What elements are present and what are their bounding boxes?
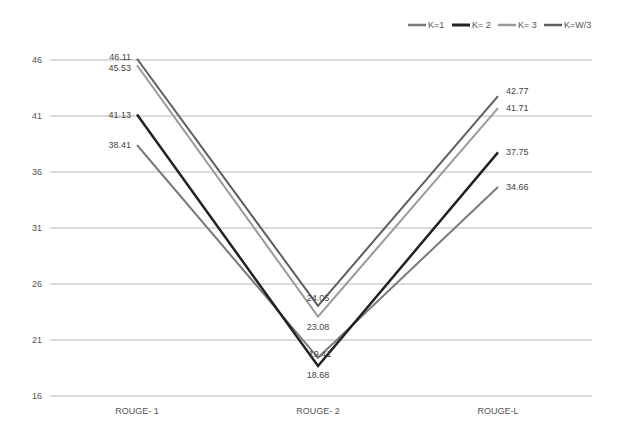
legend-label: K= 3 [518,20,537,30]
data-label: 19.41 [309,349,332,359]
legend-label: K=W/3 [564,20,591,30]
data-label: 37.75 [506,147,529,157]
y-tick-label: 16 [32,391,42,401]
data-label: 24.05 [307,293,330,303]
data-label: 42.77 [506,86,529,96]
data-label: 23.08 [307,322,330,332]
x-category-label: ROUGE-L [477,406,518,416]
legend-label: K= 2 [472,20,491,30]
data-label: 41.71 [506,103,529,113]
data-label: 18.68 [307,370,330,380]
series-line-4 [137,59,498,306]
x-category-label: ROUGE- 2 [296,406,340,416]
y-tick-label: 36 [32,167,42,177]
line-chart: 16212631364146 ROUGE- 1ROUGE- 2ROUGE-L 3… [0,0,621,436]
y-tick-label: 46 [32,55,42,65]
data-label: 46.11 [109,52,131,62]
data-label: 38.41 [108,140,131,150]
x-axis: ROUGE- 1ROUGE- 2ROUGE-L [115,406,518,416]
data-label: 41.13 [108,110,131,120]
series-lines [137,59,498,366]
y-tick-label: 26 [32,279,42,289]
y-tick-label: 41 [32,111,42,121]
data-labels: 38.4119.4134.6641.1318.6837.7545.5323.08… [108,52,528,380]
y-tick-label: 21 [32,335,42,345]
legend-label: K=1 [428,20,444,30]
x-category-label: ROUGE- 1 [115,406,159,416]
legend: K=1K= 2K= 3K=W/3 [408,20,591,30]
y-tick-label: 31 [32,223,42,233]
data-label: 45.53 [108,63,131,73]
data-label: 34.66 [506,182,529,192]
y-axis: 16212631364146 [32,55,42,401]
